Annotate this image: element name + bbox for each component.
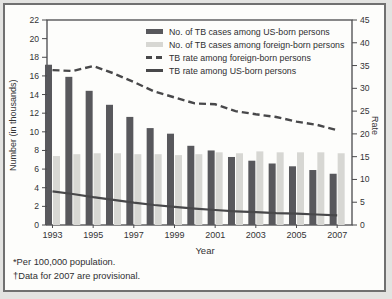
legend-label: TB rate among foreign-born persons xyxy=(169,53,311,63)
svg-text:16: 16 xyxy=(29,71,39,81)
legend-label: TB rate among US-born persons xyxy=(169,66,296,76)
left-axis: 0246810121416182022 xyxy=(29,15,47,230)
bar-foreign-born-1999 xyxy=(175,155,182,225)
svg-text:10: 10 xyxy=(29,127,39,137)
right-axis: 051015202530354045 xyxy=(352,15,370,230)
svg-text:18: 18 xyxy=(29,52,39,62)
svg-text:30: 30 xyxy=(360,83,370,93)
svg-text:22: 22 xyxy=(29,15,39,25)
bar-foreign-born-2007 xyxy=(338,153,345,225)
us-born-bars xyxy=(45,65,337,225)
footnotes: *Per 100,000 population. †Data for 2007 … xyxy=(13,255,140,283)
svg-text:1997: 1997 xyxy=(124,230,144,240)
svg-text:2003: 2003 xyxy=(246,230,266,240)
dashed-line-swatch-icon xyxy=(146,56,163,59)
dark-bar-swatch-icon xyxy=(146,29,163,34)
svg-text:12: 12 xyxy=(29,108,39,118)
bar-foreign-born-2003 xyxy=(256,151,263,225)
bar-us-born-1997 xyxy=(126,117,133,225)
right-axis-title: Rate xyxy=(370,98,380,153)
svg-text:2: 2 xyxy=(34,201,39,211)
svg-text:1999: 1999 xyxy=(164,230,184,240)
svg-text:2007: 2007 xyxy=(327,230,347,240)
svg-text:1993: 1993 xyxy=(42,230,62,240)
legend-label: No. of TB cases among foreign-born perso… xyxy=(169,40,344,50)
bar-foreign-born-1995 xyxy=(94,153,101,225)
legend: No. of TB cases among US-born persons No… xyxy=(146,25,344,77)
svg-text:15: 15 xyxy=(360,152,370,162)
svg-text:20: 20 xyxy=(360,129,370,139)
bar-us-born-2003 xyxy=(248,161,255,225)
svg-text:2001: 2001 xyxy=(205,230,225,240)
bar-us-born-1996 xyxy=(106,105,113,225)
svg-text:45: 45 xyxy=(360,15,370,25)
svg-text:5: 5 xyxy=(360,197,365,207)
bar-us-born-1999 xyxy=(167,134,174,225)
svg-text:10: 10 xyxy=(360,174,370,184)
bar-us-born-2005 xyxy=(289,166,296,225)
svg-text:20: 20 xyxy=(29,34,39,44)
svg-text:0: 0 xyxy=(34,220,39,230)
bar-foreign-born-1998 xyxy=(155,154,162,225)
bar-us-born-1998 xyxy=(147,128,154,225)
bar-foreign-born-1996 xyxy=(114,153,121,225)
bar-us-born-1993 xyxy=(45,65,52,225)
bar-us-born-1994 xyxy=(65,77,72,225)
bar-us-born-2004 xyxy=(269,164,276,226)
left-axis-title: Number (in thousands) xyxy=(8,55,18,195)
bar-foreign-born-1997 xyxy=(134,154,141,225)
bar-foreign-born-1994 xyxy=(73,154,80,225)
bar-foreign-born-2002 xyxy=(236,153,243,225)
x-axis-title: Year xyxy=(155,245,255,256)
svg-text:6: 6 xyxy=(34,164,39,174)
bar-foreign-born-2000 xyxy=(195,154,202,225)
legend-item-foreign-born-rate: TB rate among foreign-born persons xyxy=(146,51,344,64)
bar-us-born-2007 xyxy=(330,174,337,225)
svg-text:40: 40 xyxy=(360,38,370,48)
svg-text:1995: 1995 xyxy=(83,230,103,240)
legend-item-us-born-cases: No. of TB cases among US-born persons xyxy=(146,25,344,38)
bar-foreign-born-2001 xyxy=(216,152,223,225)
solid-line-swatch-icon xyxy=(146,69,163,72)
x-axis: 19931995199719992001200320052007 xyxy=(42,225,347,240)
svg-text:14: 14 xyxy=(29,90,39,100)
bar-us-born-1995 xyxy=(86,91,93,225)
footnote-provisional: †Data for 2007 are provisional. xyxy=(13,269,140,283)
bar-us-born-2000 xyxy=(187,146,194,225)
svg-text:35: 35 xyxy=(360,61,370,71)
svg-text:2005: 2005 xyxy=(286,230,306,240)
bar-us-born-2006 xyxy=(309,170,316,225)
legend-item-us-born-rate: TB rate among US-born persons xyxy=(146,64,344,77)
svg-text:4: 4 xyxy=(34,183,39,193)
light-bar-swatch-icon xyxy=(146,42,163,47)
legend-label: No. of TB cases among US-born persons xyxy=(169,27,330,37)
bar-us-born-2001 xyxy=(208,150,215,225)
svg-text:25: 25 xyxy=(360,106,370,116)
bar-us-born-2002 xyxy=(228,157,235,225)
footnote-rate: *Per 100,000 population. xyxy=(13,255,140,269)
svg-text:8: 8 xyxy=(34,145,39,155)
svg-text:0: 0 xyxy=(360,220,365,230)
legend-item-foreign-born-cases: No. of TB cases among foreign-born perso… xyxy=(146,38,344,51)
